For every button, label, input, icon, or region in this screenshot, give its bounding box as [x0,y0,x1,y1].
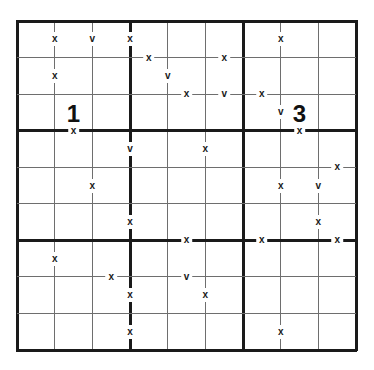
xv-marker-x: x [181,235,193,245]
xv-marker-x: x [127,288,133,302]
cell-r7c9[interactable] [318,240,356,277]
cell-r7c4[interactable] [130,240,168,277]
xv-marker-x: x [278,325,284,339]
cell-r1c9[interactable] [318,21,356,58]
cell-r9c7[interactable] [243,313,281,350]
grid-line-horizontal [17,203,356,204]
cell-r6c6[interactable] [205,204,243,241]
cell-r8c1[interactable] [17,277,55,314]
cell-r8c7[interactable] [243,277,281,314]
grid-line-horizontal [17,167,356,168]
grid-line-horizontal [17,57,356,58]
cell-r6c3[interactable] [92,204,130,241]
cell-r7c6[interactable] [205,240,243,277]
cell-r8c2[interactable] [55,277,93,314]
grid-line-horizontal [17,313,356,314]
cell-r5c8[interactable] [281,167,319,204]
xv-marker-x: x [127,325,133,339]
xv-marker-v: v [316,179,322,193]
cell-r9c6[interactable] [205,313,243,350]
cell-r8c8[interactable] [281,277,319,314]
xv-marker-x: x [143,53,155,63]
cell-r3c9[interactable] [318,94,356,131]
cell-r1c7[interactable] [243,21,281,58]
box-border-vertical [355,20,358,351]
cell-r3c5[interactable] [168,94,206,131]
xv-marker-x: x [331,162,343,172]
cell-r8c9[interactable] [318,277,356,314]
xv-marker-v: v [181,272,193,282]
cell-r4c2[interactable] [55,131,93,168]
cell-r5c5[interactable] [168,167,206,204]
cell-r5c3[interactable] [92,167,130,204]
cell-r5c2[interactable] [55,167,93,204]
cell-r1c8[interactable] [281,21,319,58]
box-border-horizontal [16,20,357,23]
cell-r9c5[interactable] [168,313,206,350]
xv-marker-x: x [181,89,193,99]
xv-marker-v: v [90,32,96,46]
cell-r5c7[interactable] [243,167,281,204]
cell-r4c5[interactable] [168,131,206,168]
cell-r1c3[interactable] [92,21,130,58]
cell-r2c4[interactable] [130,58,168,95]
cell-r1c2[interactable] [55,21,93,58]
cell-r5c1[interactable] [17,167,55,204]
cell-r7c1[interactable] [17,240,55,277]
box-number-label: 1 [67,102,80,126]
xv-marker-x: x [52,252,58,266]
cell-r9c4[interactable] [130,313,168,350]
cell-r6c1[interactable] [17,204,55,241]
cell-r3c3[interactable] [92,94,130,131]
cell-r3c4[interactable] [130,94,168,131]
cell-r4c8[interactable] [281,131,319,168]
cell-r2c3[interactable] [92,58,130,95]
xv-marker-x: x [105,272,117,282]
xv-marker-x: x [278,32,284,46]
cell-r1c1[interactable] [17,21,55,58]
xv-marker-x: x [278,179,284,193]
cell-r9c1[interactable] [17,313,55,350]
xv-marker-v: v [218,89,230,99]
cell-r8c4[interactable] [130,277,168,314]
cell-r7c2[interactable] [55,240,93,277]
cell-r2c2[interactable] [55,58,93,95]
cell-r9c8[interactable] [281,313,319,350]
cell-r6c8[interactable] [281,204,319,241]
cell-r2c8[interactable] [281,58,319,95]
xv-marker-x: x [52,32,58,46]
cell-r3c6[interactable] [205,94,243,131]
cell-r6c4[interactable] [130,204,168,241]
cell-r4c6[interactable] [205,131,243,168]
xv-marker-x: x [316,215,322,229]
cell-r7c8[interactable] [281,240,319,277]
cell-r7c7[interactable] [243,240,281,277]
cell-r3c7[interactable] [243,94,281,131]
cell-r6c2[interactable] [55,204,93,241]
cell-r5c9[interactable] [318,167,356,204]
cell-r5c4[interactable] [130,167,168,204]
xv-marker-x: x [331,235,343,245]
cell-r8c6[interactable] [205,277,243,314]
xv-marker-x: x [127,32,133,46]
cell-r9c9[interactable] [318,313,356,350]
xv-marker-x: x [256,235,268,245]
xv-marker-x: x [203,142,209,156]
cell-r4c1[interactable] [17,131,55,168]
cell-r3c1[interactable] [17,94,55,131]
cell-r1c5[interactable] [168,21,206,58]
cell-r5c6[interactable] [205,167,243,204]
cell-r2c1[interactable] [17,58,55,95]
cell-r9c2[interactable] [55,313,93,350]
xv-marker-v: v [165,69,171,83]
box-border-vertical [16,20,19,351]
cell-r8c3[interactable] [92,277,130,314]
cell-r4c4[interactable] [130,131,168,168]
cell-r2c9[interactable] [318,58,356,95]
cell-r4c7[interactable] [243,131,281,168]
cell-r8c5[interactable] [168,277,206,314]
xv-marker-x: x [127,215,133,229]
cell-r4c3[interactable] [92,131,130,168]
box-border-vertical [242,20,245,351]
cell-r9c3[interactable] [92,313,130,350]
